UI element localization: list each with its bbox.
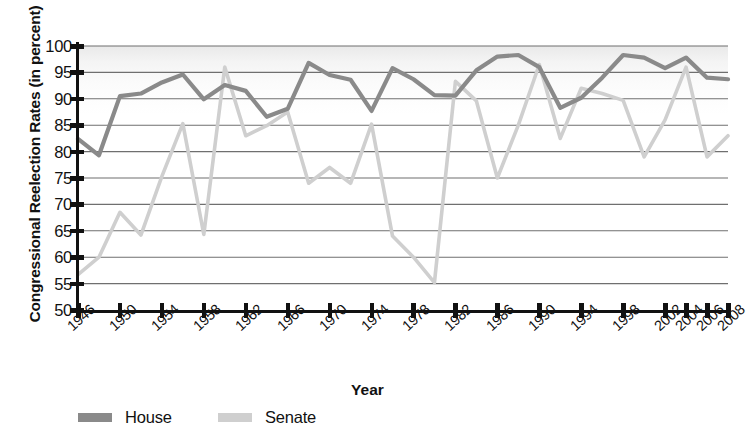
- x-tick-label: 1994: [567, 301, 601, 334]
- legend-swatch-senate: [218, 413, 252, 422]
- x-tick-label: 1958: [190, 301, 224, 334]
- x-tick-label: 1990: [525, 301, 559, 334]
- x-tick-label: 1986: [483, 301, 517, 334]
- x-tick-label: 1946: [64, 301, 98, 334]
- x-tick-label: 1978: [399, 301, 433, 334]
- x-tick-label: 1982: [441, 301, 475, 334]
- x-tick-label: 1998: [609, 301, 643, 334]
- x-tick-label: 1974: [358, 301, 392, 334]
- x-axis-title: Year: [0, 381, 735, 399]
- x-tick-label: 1962: [232, 301, 266, 334]
- x-tick-label: 1966: [274, 301, 308, 334]
- x-tick-label: 1970: [316, 301, 350, 334]
- legend-item-house[interactable]: House: [78, 408, 172, 427]
- legend-label: Senate: [265, 408, 316, 427]
- legend-swatch-house: [78, 413, 112, 422]
- x-tick-label: 1954: [148, 301, 182, 334]
- legend-item-senate[interactable]: Senate: [218, 408, 316, 427]
- legend-label: House: [125, 408, 172, 427]
- x-tick-label: 1950: [106, 301, 140, 334]
- chart-legend: HouseSenate: [0, 408, 735, 434]
